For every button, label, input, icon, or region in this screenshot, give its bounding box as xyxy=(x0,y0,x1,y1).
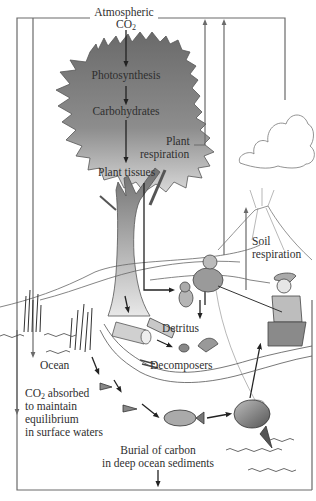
label-to-maintain: to maintain xyxy=(25,400,77,413)
label-plant-tissues: Plant tissues xyxy=(98,166,155,179)
label-plant-respiration-1: Plant xyxy=(166,135,190,148)
label-co2-absorbed: CO2 absorbed xyxy=(25,387,89,400)
reeds xyxy=(24,290,92,352)
label-burial-1: Burial of carbon xyxy=(98,444,218,457)
log xyxy=(112,322,151,344)
fish xyxy=(100,383,272,448)
label-soil-respiration-2: respiration xyxy=(252,248,301,261)
label-plant-respiration-2: respiration xyxy=(140,148,189,161)
label-soil-respiration-1: Soil xyxy=(252,235,271,248)
label-equilibrium: equilibrium xyxy=(25,413,79,426)
animals xyxy=(140,255,223,368)
smoke-cloud xyxy=(239,115,314,168)
label-photosynthesis: Photosynthesis xyxy=(86,69,166,82)
label-decomposers: Decomposers xyxy=(150,359,213,372)
fishing-person xyxy=(216,273,306,406)
carbon-cycle-diagram: Atmospheric CO2 Photosynthesis Carbohydr… xyxy=(0,0,316,501)
label-atmospheric-co2: CO2 xyxy=(110,18,142,31)
label-detritus: Detritus xyxy=(162,322,199,335)
label-surface-waters: in surface waters xyxy=(25,426,103,439)
label-carbohydrates: Carbohydrates xyxy=(86,105,166,118)
label-burial-2: in deep ocean sediments xyxy=(88,457,228,470)
label-ocean: Ocean xyxy=(40,359,69,372)
tree-trunk xyxy=(108,168,160,316)
